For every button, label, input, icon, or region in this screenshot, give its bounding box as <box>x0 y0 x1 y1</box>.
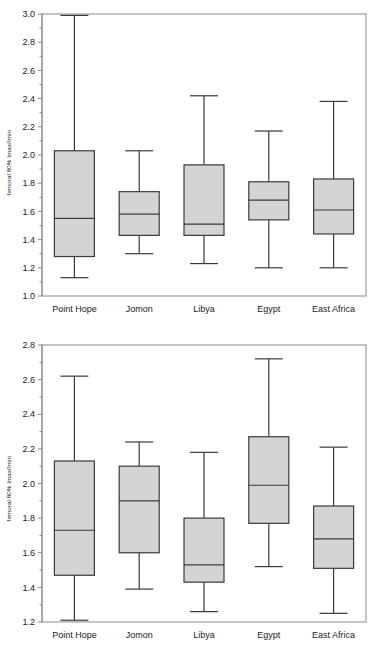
boxplot-panel-top: femoral 80% Imax/Imin 1.01.21.41.61.82.0… <box>0 0 373 326</box>
y-tick-label: 3.0 <box>22 9 35 19</box>
y-tick-label: 1.4 <box>22 235 35 245</box>
y-tick-label: 2.0 <box>22 150 35 160</box>
boxplot-group <box>54 15 94 277</box>
y-tick-label: 2.6 <box>22 66 35 76</box>
box-iqr <box>249 182 289 220</box>
box-iqr <box>54 151 94 257</box>
y-tick-label: 2.2 <box>22 122 35 132</box>
y-tick-label: 2.0 <box>22 479 35 489</box>
box-iqr <box>54 461 94 575</box>
x-category-label: East Africa <box>312 304 355 314</box>
boxplot-panel-bottom: femoral 80% Imax/Imin 1.21.41.61.82.02.2… <box>0 326 373 652</box>
boxplot-svg-top: 1.01.21.41.61.82.02.22.42.62.83.0Point H… <box>0 0 373 326</box>
x-category-label: Point Hope <box>52 630 97 640</box>
x-category-label: Jomon <box>126 304 153 314</box>
x-category-label: Libya <box>193 630 215 640</box>
x-category-label: Libya <box>193 304 215 314</box>
y-tick-label: 1.8 <box>22 178 35 188</box>
box-iqr <box>314 506 354 568</box>
y-tick-label: 2.4 <box>22 94 35 104</box>
y-tick-label: 2.6 <box>22 375 35 385</box>
boxplot-group <box>249 359 289 567</box>
boxplot-group <box>184 452 224 611</box>
x-category-label: Egypt <box>257 630 281 640</box>
boxplot-group <box>119 442 159 589</box>
y-tick-label: 1.6 <box>22 207 35 217</box>
y-tick-label: 1.4 <box>22 583 35 593</box>
boxplot-group <box>54 376 94 620</box>
x-category-label: East Africa <box>312 630 355 640</box>
boxplot-group <box>314 101 354 267</box>
y-tick-label: 1.2 <box>22 617 35 627</box>
y-tick-label: 2.2 <box>22 444 35 454</box>
y-tick-label: 2.8 <box>22 340 35 350</box>
box-iqr <box>314 179 354 234</box>
boxplot-group <box>249 131 289 268</box>
y-tick-label: 1.6 <box>22 548 35 558</box>
y-tick-label: 1.0 <box>22 291 35 301</box>
box-iqr <box>119 192 159 236</box>
boxplot-svg-bottom: 1.21.41.61.82.02.22.42.62.8Point HopeJom… <box>0 326 373 652</box>
x-category-label: Point Hope <box>52 304 97 314</box>
box-iqr <box>184 518 224 582</box>
x-category-label: Jomon <box>126 630 153 640</box>
y-tick-label: 1.2 <box>22 263 35 273</box>
y-tick-label: 2.4 <box>22 409 35 419</box>
boxplot-group <box>119 151 159 254</box>
x-category-label: Egypt <box>257 304 281 314</box>
box-iqr <box>119 466 159 553</box>
box-iqr <box>184 165 224 236</box>
y-tick-label: 1.8 <box>22 513 35 523</box>
boxplot-group <box>184 96 224 264</box>
boxplot-group <box>314 447 354 613</box>
box-iqr <box>249 437 289 524</box>
y-tick-label: 2.8 <box>22 37 35 47</box>
